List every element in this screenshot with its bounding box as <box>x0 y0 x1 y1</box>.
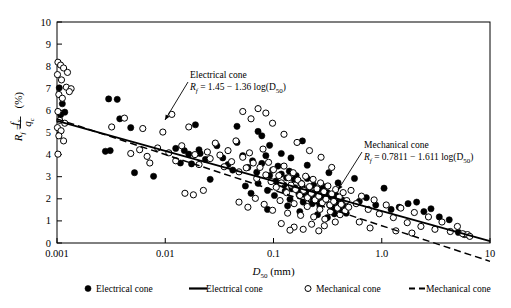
data-point-mechanical <box>306 148 312 154</box>
chart-root: 0123456789100.0010.010.11.010D50 (mm)Rf … <box>0 0 511 308</box>
y-tick-label: 6 <box>46 105 51 116</box>
data-point-mechanical <box>55 108 61 114</box>
data-point-mechanical <box>186 124 192 130</box>
data-point-mechanical <box>257 164 263 170</box>
data-point-mechanical <box>299 181 305 187</box>
data-point-electrical <box>192 122 198 128</box>
x-tick-label: 0.001 <box>45 248 69 259</box>
data-point-mechanical <box>250 160 256 166</box>
data-point-mechanical <box>60 138 66 144</box>
data-point-mechanical <box>323 196 329 202</box>
data-point-mechanical <box>56 133 62 139</box>
data-point-mechanical <box>281 163 287 169</box>
legend-marker-filled-circle <box>85 286 91 292</box>
data-point-electrical <box>150 173 156 179</box>
data-point-electrical <box>288 155 294 161</box>
legend-label: Electrical cone <box>96 284 153 294</box>
svg-text:qc: qc <box>21 117 36 127</box>
data-point-mechanical <box>318 154 324 160</box>
data-point-mechanical <box>128 150 134 156</box>
legend-label: Electrical cone <box>206 284 263 294</box>
data-point-electrical <box>266 142 272 148</box>
annotation-title-electrical: Electrical cone <box>190 70 247 80</box>
data-point-mechanical <box>278 220 284 226</box>
data-point-mechanical <box>346 204 352 210</box>
data-point-mechanical <box>269 207 275 213</box>
data-point-electrical <box>285 203 291 209</box>
data-point-mechanical <box>59 95 65 101</box>
data-point-mechanical <box>260 146 266 152</box>
data-point-mechanical <box>383 202 389 208</box>
data-point-mechanical <box>160 129 166 135</box>
data-point-mechanical <box>281 131 287 137</box>
data-point-mechanical <box>182 190 188 196</box>
y-tick-label: 5 <box>46 127 51 138</box>
data-point-mechanical <box>269 120 275 126</box>
data-point-mechanical <box>439 219 445 225</box>
data-point-mechanical <box>304 203 310 209</box>
data-point-mechanical <box>303 173 309 179</box>
x-tick-label: 1.0 <box>375 248 388 259</box>
data-point-electrical <box>304 162 310 168</box>
data-point-mechanical <box>66 89 72 95</box>
svg-text:(%): (%) <box>12 92 25 109</box>
data-point-mechanical <box>192 152 198 158</box>
data-point-mechanical <box>265 159 271 165</box>
data-point-electrical <box>351 175 357 181</box>
data-point-mechanical <box>321 223 327 229</box>
data-point-mechanical <box>255 106 261 112</box>
legend-marker-open-circle <box>305 286 311 292</box>
data-point-mechanical <box>200 187 206 193</box>
y-tick-label: 10 <box>41 17 52 28</box>
data-point-mechanical <box>316 228 322 234</box>
data-point-electrical <box>428 206 434 212</box>
data-point-mechanical <box>348 187 354 193</box>
data-point-mechanical <box>425 214 431 220</box>
legend-group: Electrical coneElectrical coneMechanical… <box>85 284 491 294</box>
data-point-electrical <box>271 192 277 198</box>
data-point-electrical <box>106 96 112 102</box>
data-point-mechanical <box>340 190 346 196</box>
data-point-mechanical <box>322 216 328 222</box>
data-point-mechanical <box>290 170 296 176</box>
data-point-mechanical <box>207 155 213 161</box>
data-point-electrical <box>335 180 341 186</box>
data-point-mechanical <box>310 176 316 182</box>
y-tick-label: 1 <box>46 215 51 226</box>
data-point-electrical <box>207 176 213 182</box>
annotation-equation-mechanical: Rf = 0.7811 − 1.611 log(D50) <box>363 152 474 165</box>
data-point-mechanical <box>54 72 60 78</box>
data-point-mechanical <box>309 221 315 227</box>
data-point-mechanical <box>273 184 279 190</box>
data-point-mechanical <box>329 164 335 170</box>
annotation-title-mechanical: Mechanical cone <box>364 140 429 150</box>
data-point-electrical <box>278 150 284 156</box>
data-point-mechanical <box>298 212 304 218</box>
data-point-mechanical <box>286 175 292 181</box>
y-tick-label: 7 <box>46 83 51 94</box>
data-point-electrical <box>128 125 134 131</box>
data-point-mechanical <box>240 154 246 160</box>
data-point-mechanical <box>190 192 196 198</box>
data-point-electrical <box>446 217 452 223</box>
data-point-mechanical <box>245 204 251 210</box>
data-point-electrical <box>255 128 261 134</box>
fit-line-electrical <box>57 121 490 241</box>
data-point-mechanical <box>317 180 323 186</box>
data-point-electrical <box>173 145 179 151</box>
data-point-mechanical <box>64 69 70 75</box>
data-point-mechanical <box>411 209 417 215</box>
data-point-mechanical <box>225 148 231 154</box>
data-point-mechanical <box>306 184 312 190</box>
data-point-electrical <box>234 123 240 129</box>
data-point-mechanical <box>418 223 424 229</box>
data-point-mechanical <box>263 110 269 116</box>
y-tick-label: 8 <box>46 61 51 72</box>
data-point-mechanical <box>233 138 239 144</box>
data-point-mechanical <box>240 108 246 114</box>
legend-item-0: Electrical cone <box>85 284 153 294</box>
y-tick-label: 9 <box>46 39 51 50</box>
data-point-mechanical <box>236 199 242 205</box>
data-point-electrical <box>405 201 411 207</box>
data-point-mechanical <box>311 214 317 220</box>
